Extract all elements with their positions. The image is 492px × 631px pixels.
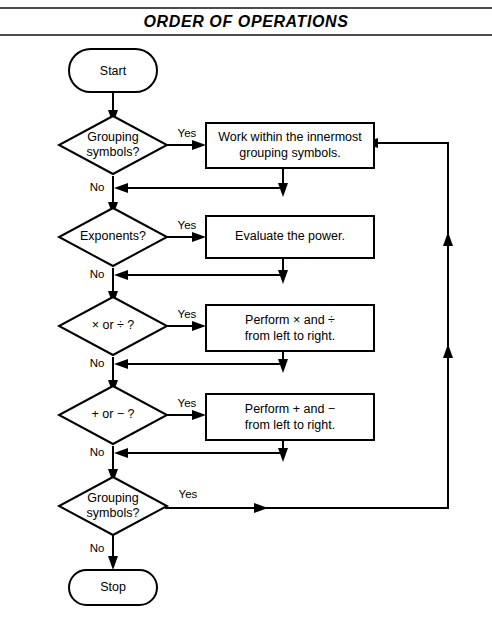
edge-decision2-yes-to-process2 xyxy=(165,232,206,242)
edge-label-decision3-no: No xyxy=(90,357,105,369)
node-stop-label: Stop xyxy=(100,580,126,594)
edge-label-decision4-yes: Yes xyxy=(178,397,197,409)
node-process4-label-line2: from left to right. xyxy=(245,418,335,432)
edge-label-decision2-no: No xyxy=(90,268,105,280)
edge-label-decision5-no: No xyxy=(90,542,105,554)
edge-label-decision4-no: No xyxy=(90,446,105,458)
node-process-work-innermost[interactable]: Work within the innermost grouping symbo… xyxy=(206,123,374,168)
edge-process4-return xyxy=(278,440,288,462)
edge-decision4-yes-to-process4 xyxy=(165,410,206,420)
node-decision5-label-line1: Grouping xyxy=(87,491,138,505)
node-decision1-label-line1: Grouping xyxy=(87,130,138,144)
node-process4-label-line1: Perform + and − xyxy=(245,402,335,416)
node-decision3-label-line1: × or ÷ ? xyxy=(92,318,135,332)
node-decision-add-subtract[interactable]: + or − ? xyxy=(59,386,167,444)
node-decision-multiply-divide[interactable]: × or ÷ ? xyxy=(59,297,167,355)
edge-label-decision3-yes: Yes xyxy=(178,308,197,320)
node-process-evaluate-power[interactable]: Evaluate the power. xyxy=(206,216,374,258)
edge-merge1-horizontal xyxy=(114,183,283,193)
node-start[interactable]: Start xyxy=(69,49,157,92)
flowchart-page: ORDER OF OPERATIONS xyxy=(0,0,492,631)
page-title: ORDER OF OPERATIONS xyxy=(0,12,492,32)
node-decision-grouping-symbols-1[interactable]: Grouping symbols? xyxy=(59,116,167,174)
node-decision-grouping-symbols-2[interactable]: Grouping symbols? xyxy=(59,477,167,535)
node-stop[interactable]: Stop xyxy=(69,570,157,605)
edge-process1-return xyxy=(278,168,288,197)
edge-process3-return xyxy=(278,351,288,373)
node-process2-label-line1: Evaluate the power. xyxy=(235,229,345,243)
edge-merge2-horizontal xyxy=(114,270,283,280)
node-process3-label-line2: from left to right. xyxy=(245,329,335,343)
edge-merge4-horizontal xyxy=(114,448,283,458)
node-process1-label-line1: Work within the innermost xyxy=(218,130,362,144)
node-start-label: Start xyxy=(100,64,127,78)
node-process3-label-line1: Perform × and ÷ xyxy=(245,313,335,327)
node-process1-label-line2: grouping symbols. xyxy=(239,146,340,160)
edge-decision5-no-to-stop xyxy=(108,535,118,570)
edge-merge3-horizontal xyxy=(114,359,283,369)
edge-label-decision1-no: No xyxy=(90,181,105,193)
node-decision5-label-line2: symbols? xyxy=(87,506,140,520)
flowchart-canvas: Start Grouping symbols? Yes No Work with… xyxy=(0,36,492,631)
node-decision1-label-line2: symbols? xyxy=(87,145,140,159)
header-rule-top xyxy=(0,7,492,9)
edge-label-decision2-yes: Yes xyxy=(178,219,197,231)
node-decision4-label-line1: + or − ? xyxy=(91,407,134,421)
node-process-multiply-divide[interactable]: Perform × and ÷ from left to right. xyxy=(206,305,374,351)
edge-label-decision1-yes: Yes xyxy=(178,127,197,139)
node-decision-exponents[interactable]: Exponents? xyxy=(59,208,167,266)
edge-label-decision5-yes: Yes xyxy=(179,488,198,500)
edge-decision3-yes-to-process3 xyxy=(165,321,206,331)
node-decision2-label-line1: Exponents? xyxy=(80,229,146,243)
edge-decision1-yes-to-process1 xyxy=(165,140,206,150)
edge-process2-return xyxy=(278,258,288,284)
node-process-add-subtract[interactable]: Perform + and − from left to right. xyxy=(206,394,374,440)
